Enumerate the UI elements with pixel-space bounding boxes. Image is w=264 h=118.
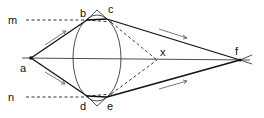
point-f	[239, 59, 242, 62]
ray-d-to-e	[87, 96, 107, 97]
ray-e-to-f	[107, 60, 240, 97]
optical-axis	[22, 58, 250, 60]
label-n: n	[8, 91, 14, 103]
ray-a-to-b	[31, 20, 87, 58]
label-x: x	[160, 46, 166, 58]
label-m: m	[8, 14, 17, 26]
dashed-c-to-x	[107, 19, 157, 60]
label-a: a	[20, 62, 27, 74]
ray-extension-upper	[240, 55, 252, 60]
lens-ray-diagram: m n a b c d e x f	[0, 0, 264, 118]
ray-a-to-d	[31, 58, 87, 96]
label-c: c	[108, 3, 114, 15]
dashed-e-to-x	[107, 60, 157, 97]
ray-b-to-c	[87, 19, 107, 20]
label-d: d	[80, 100, 86, 112]
arrow-upper-right-icon	[159, 29, 187, 39]
label-f: f	[235, 45, 239, 57]
lens	[73, 15, 121, 101]
label-b: b	[80, 7, 86, 19]
label-e: e	[107, 100, 113, 112]
point-a	[29, 56, 33, 60]
arrow-upper-left-icon	[45, 31, 66, 45]
ray-c-to-f	[107, 19, 240, 60]
ray-extension-lower	[240, 60, 252, 64]
